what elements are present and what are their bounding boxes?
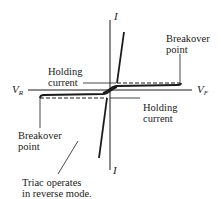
reverse-mode-line1: Triac operates <box>22 177 92 188</box>
vf-base: V <box>197 83 204 95</box>
label-reverse-mode-note: Triac operates in reverse mode. <box>22 177 92 199</box>
vr-sub: R <box>19 89 23 97</box>
vf-sub: F <box>204 89 208 97</box>
breakover-forward-line2: point <box>166 44 210 55</box>
axis-label-i-bottom: I <box>113 164 117 176</box>
label-breakover-forward: Breakover point <box>166 33 210 55</box>
breakover-reverse-line2: point <box>18 141 62 152</box>
reverse-mode-line2: in reverse mode. <box>22 188 92 199</box>
diagram-graphics <box>0 0 221 199</box>
label-breakover-reverse: Breakover point <box>18 130 62 152</box>
axis-label-vr: VR <box>12 83 23 97</box>
vr-base: V <box>12 83 19 95</box>
label-holding-forward: Holding current <box>48 66 82 88</box>
holding-forward-line1: Holding <box>48 66 82 77</box>
breakover-forward-line1: Breakover <box>166 33 210 44</box>
triac-characteristic-diagram: I I VR VF Breakover point Holding curren… <box>0 0 221 199</box>
holding-reverse-line2: current <box>143 113 177 124</box>
holding-forward-line2: current <box>48 77 82 88</box>
forward-conduction-line <box>117 32 124 83</box>
axis-label-i-top: I <box>114 10 118 22</box>
holding-reverse-line1: Holding <box>143 102 177 113</box>
reverse-conduction-line <box>99 98 107 158</box>
label-holding-reverse: Holding current <box>143 102 177 124</box>
axis-label-vf: VF <box>197 83 208 97</box>
breakover-reverse-line1: Breakover <box>18 130 62 141</box>
